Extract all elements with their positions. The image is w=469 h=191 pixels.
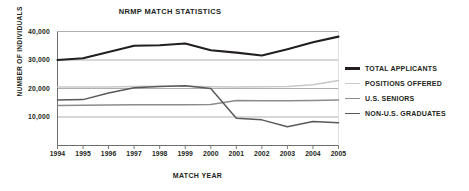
legend-label: NON-U.S. GRADUATES bbox=[365, 110, 446, 117]
legend-item[interactable]: U.S. SENIORS bbox=[345, 91, 446, 106]
legend-label: U.S. SENIORS bbox=[365, 95, 414, 102]
y-tick-label: 40,000 bbox=[8, 28, 50, 35]
legend-item[interactable]: NON-U.S. GRADUATES bbox=[345, 106, 446, 121]
legend-swatch bbox=[345, 67, 360, 69]
series-line bbox=[58, 100, 339, 106]
series-lines bbox=[58, 37, 339, 127]
nrmp-match-statistics-chart: NRMP MATCH STATISTICS NUMBER OF INDIVIDU… bbox=[0, 0, 469, 191]
y-tick-label: 20,000 bbox=[8, 85, 50, 92]
legend-item[interactable]: POSITIONS OFFERED bbox=[345, 76, 446, 91]
series-line bbox=[58, 37, 339, 60]
x-axis-ticks bbox=[58, 146, 339, 150]
legend-item[interactable]: TOTAL APPLICANTS bbox=[345, 61, 446, 76]
legend-label: TOTAL APPLICANTS bbox=[365, 65, 437, 72]
y-tick-label: 10,000 bbox=[8, 113, 50, 120]
series-line bbox=[58, 86, 339, 127]
x-tick-label: 2005 bbox=[322, 150, 356, 157]
legend-swatch bbox=[345, 98, 360, 100]
y-tick-label: 30,000 bbox=[8, 56, 50, 63]
series-line bbox=[58, 81, 339, 88]
legend-swatch bbox=[345, 113, 360, 115]
legend-swatch bbox=[345, 83, 360, 85]
x-axis-label: MATCH YEAR bbox=[57, 172, 338, 179]
chart-legend: TOTAL APPLICANTSPOSITIONS OFFEREDU.S. SE… bbox=[345, 61, 446, 121]
legend-label: POSITIONS OFFERED bbox=[365, 80, 442, 87]
